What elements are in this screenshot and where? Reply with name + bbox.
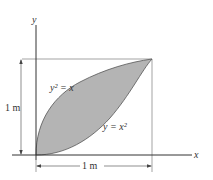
- curve-label-upper: y² = x: [49, 82, 74, 93]
- arrow-up-icon: [19, 59, 22, 64]
- area-diagram: y x y² = x y = x² 1 m 1 m: [0, 0, 213, 180]
- arrow-left-icon: [36, 164, 41, 167]
- height-dimension-label: 1 m: [5, 102, 21, 113]
- curve-label-lower: y = x²: [102, 121, 128, 132]
- width-dimension-label: 1 m: [82, 160, 98, 171]
- arrow-right-icon: [147, 164, 152, 167]
- arrow-down-icon: [19, 150, 22, 155]
- y-axis-label: y: [31, 14, 37, 25]
- x-axis-label: x: [193, 149, 199, 160]
- shaded-region: [36, 59, 152, 155]
